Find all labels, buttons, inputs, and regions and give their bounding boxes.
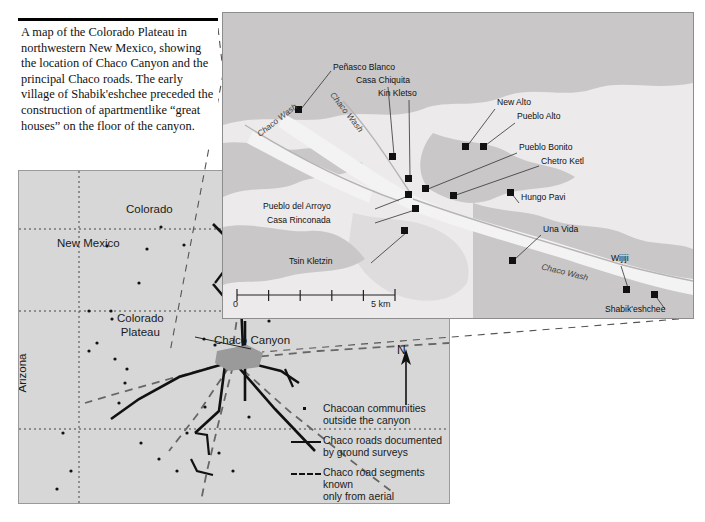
site-label-pueblo-bonito: Pueblo Bonito: [519, 143, 573, 153]
site-label-hungo-pavi: Hungo Pavi: [521, 193, 565, 203]
site-label-casa-rinconada: Casa Rinconada: [267, 216, 331, 226]
site-label-penasco-blanco: Peñasco Blanco: [333, 63, 395, 73]
site-label-shabikeshchee: Shabik'eshchee: [605, 305, 665, 315]
detail-canyon-map: Peñasco Blanco Casa Chiquita Kin Kletso …: [222, 12, 694, 319]
caption-top-rule: [18, 18, 218, 21]
site-label-chetro-ketl: Chetro Ketl: [541, 157, 584, 167]
site-label-tsin-kletzin: Tsin Kletzin: [289, 257, 332, 267]
site-label-pueblo-del-arroyo: Pueblo del Arroyo: [263, 202, 331, 212]
detail-map-graphics: [223, 13, 693, 318]
scale-bar-max-label: 5 km: [371, 299, 391, 309]
site-label-una-vida: Una Vida: [543, 225, 578, 235]
scale-bar-min-label: 0: [233, 299, 238, 309]
site-label-pueblo-alto: Pueblo Alto: [517, 112, 560, 122]
caption-text: A map of the Colorado Plateau in northwe…: [21, 25, 217, 134]
site-label-kin-kletso: Kin Kletso: [378, 89, 417, 99]
site-label-wijiji: Wijiji: [611, 254, 629, 264]
site-label-new-alto: New Alto: [497, 98, 531, 108]
site-label-casa-chiquita: Casa Chiquita: [356, 76, 410, 86]
